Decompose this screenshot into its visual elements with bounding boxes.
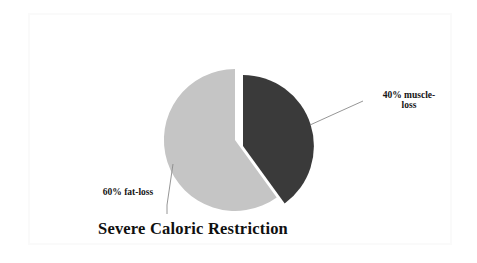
pie-label-muscle-loss: 40% muscle- loss [366, 90, 452, 111]
pie-chart-figure: 40% muscle- loss 60% fat-loss Severe Cal… [0, 0, 477, 263]
leader-line-muscle-loss [310, 101, 363, 125]
chart-title: Severe Caloric Restriction [98, 219, 298, 239]
pie-label-fat-loss: 60% fat-loss [86, 187, 170, 197]
